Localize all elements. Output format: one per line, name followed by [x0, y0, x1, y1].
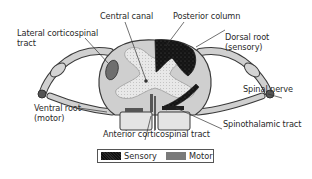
anterior-corticospinal-tract	[150, 94, 153, 112]
label-lateral-corticospinal-line2: tract	[17, 39, 36, 49]
spinal-cord-diagram: Central canal Posterior column Lateral c…	[0, 0, 312, 179]
label-ventral-root-line2: (motor)	[34, 114, 64, 124]
label-dorsal-root-line2: (sensory)	[225, 43, 262, 53]
label-spinothalamic-tract: Spinothalamic tract	[223, 120, 301, 130]
legend-label-sensory: Sensory	[124, 151, 157, 161]
label-anterior-corticospinal-tract: Anterior corticospinal tract	[103, 130, 210, 140]
legend-label-motor: Motor	[189, 151, 213, 161]
label-spinal-nerve: Spinal nerve	[243, 85, 293, 95]
legend: Sensory Motor	[97, 149, 214, 163]
label-central-canal: Central canal	[100, 12, 153, 22]
legend-swatch-sensory	[101, 152, 121, 160]
label-posterior-column: Posterior column	[173, 12, 240, 22]
legend-swatch-motor	[166, 152, 186, 160]
